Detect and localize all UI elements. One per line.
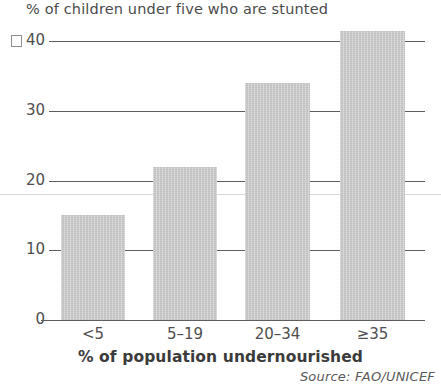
x-axis-title: % of population undernourished [0,348,441,366]
y-axis-tick-label: 10 [5,242,45,257]
missing-glyph-artifact-icon [11,35,22,47]
bar [153,167,217,320]
y-axis-tick-label: 30 [5,103,45,118]
x-axis-tick-label: 5–19 [153,327,217,342]
y-axis-tick-label: 20 [5,173,45,188]
x-axis-baseline [41,320,425,321]
source-attribution: Source: FAO/UNICEF [300,369,435,384]
plot-area: 010203040 <55–1920–34≥35 [0,0,441,391]
y-axis-tick-label: 0 [5,312,45,327]
bar [340,31,405,320]
bar [61,215,125,320]
x-axis-tick-label: 20–34 [245,327,310,342]
chart-figure: % of children under five who are stunted… [0,0,441,391]
x-axis-tick-label: ≥35 [340,327,405,342]
bar [245,83,310,320]
x-axis-tick-label: <5 [61,327,125,342]
